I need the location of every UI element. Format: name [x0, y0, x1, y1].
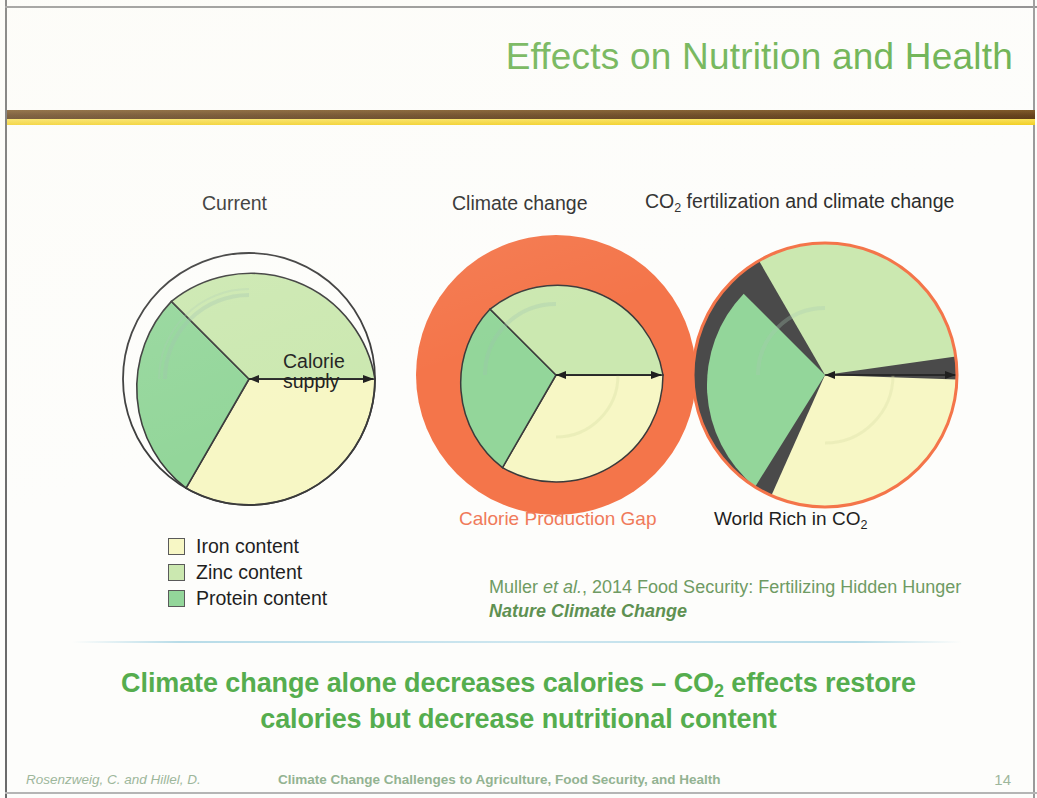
footer-presentation-title: Climate Change Challenges to Agriculture… [278, 772, 721, 787]
sub-caption-world-rich-in-co2: World Rich in CO2 [714, 508, 867, 530]
sub-caption-calorie-production-gap: Calorie Production Gap [459, 508, 657, 530]
citation: Muller et al., 2014 Food Security: Ferti… [489, 576, 961, 624]
page-title: Effects on Nutrition and Health [506, 36, 1013, 78]
chart-caption-current: Current [202, 192, 267, 215]
conclusion-line2: calories but decrease nutritional conten… [260, 704, 777, 734]
caption-co2-text: CO [645, 190, 674, 212]
conclusion-co2-subscript: 2 [714, 681, 724, 701]
slide: Effects on Nutrition and Health Current … [0, 0, 1037, 798]
page-border-top [5, 6, 1037, 8]
citation-etal: et al. [543, 577, 582, 597]
header-rule-brown [7, 110, 1035, 119]
legend-label-protein: Protein content [196, 587, 327, 610]
page-border-bottom [5, 792, 1037, 794]
conclusion-text: Climate change alone decreases calories … [0, 666, 1037, 737]
footer-author: Rosenzweig, C. and Hillel, D. [26, 772, 201, 787]
sub-caption-co2-subscript: 2 [860, 518, 867, 532]
footer-page-number: 14 [994, 771, 1011, 788]
citation-author: Muller [489, 577, 543, 597]
chart-caption-climate-change: Climate change [452, 192, 588, 215]
header-rule-yellow [7, 119, 1035, 125]
legend-item-protein: Protein content [168, 586, 327, 610]
legend-label-iron: Iron content [196, 535, 299, 558]
pie-co2-svg [688, 238, 962, 512]
citation-rest: , 2014 Food Security: Fertilizing Hidden… [582, 577, 961, 597]
legend-swatch-iron-icon [168, 538, 185, 555]
legend-label-zinc: Zinc content [196, 561, 302, 584]
legend-item-iron: Iron content [168, 534, 327, 558]
chart-caption-co2-fertilization: CO2 fertilization and climate change [645, 190, 954, 213]
legend-swatch-zinc-icon [168, 564, 185, 581]
caption-co2-subscript: 2 [674, 201, 681, 215]
calorie-supply-label-line1: Calorie [283, 350, 345, 372]
calorie-supply-label-line2: supply [283, 370, 339, 392]
calorie-supply-label: Calorie supply [283, 352, 345, 392]
pie-chart-co2-fertilization [688, 238, 962, 512]
sub-caption-co2-text: World Rich in CO [714, 508, 860, 529]
conclusion-line1-b: effects restore [724, 668, 916, 698]
legend-swatch-protein-icon [168, 590, 185, 607]
citation-journal: Nature Climate Change [489, 600, 961, 624]
conclusion-line1-a: Climate change alone decreases calories … [121, 668, 714, 698]
caption-co2-rest: fertilization and climate change [681, 190, 954, 212]
section-divider [72, 641, 962, 643]
pie-chart-climate-change [413, 232, 699, 518]
pie-climate-change-svg [413, 232, 699, 518]
legend: Iron content Zinc content Protein conten… [168, 534, 327, 612]
legend-item-zinc: Zinc content [168, 560, 327, 584]
